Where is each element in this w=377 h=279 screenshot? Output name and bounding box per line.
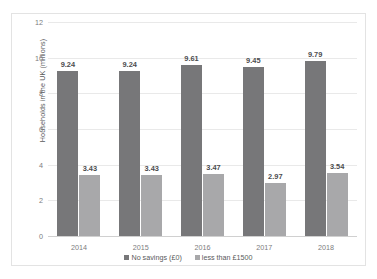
x-axis-tick-label: 2016 [181,243,224,252]
legend-swatch-icon [195,255,200,260]
legend-item[interactable]: No savings (£0) [124,253,181,262]
y-axis-tick-label: 10 [35,53,43,62]
y-axis-tick-label: 4 [39,160,43,169]
bar-value-label: 3.43 [144,164,158,173]
plot-area: 0246810129.243.4320149.243.4320159.613.4… [48,22,357,236]
bar[interactable]: 9.61 [181,65,202,236]
chart-legend: No savings (£0)less than £1500 [12,253,365,262]
x-axis-tick-label: 2015 [119,243,162,252]
x-axis-tick-label: 2018 [305,243,348,252]
bar-value-label: 3.47 [206,163,220,172]
bar[interactable]: 9.45 [243,67,264,236]
gridline [48,236,357,237]
legend-item[interactable]: less than £1500 [195,253,253,262]
bar-group: 9.452.972017 [243,22,286,236]
bar[interactable]: 2.97 [265,183,286,236]
bar-value-label: 9.24 [61,60,75,69]
bar-group: 9.243.432014 [57,22,100,236]
bar-value-label: 9.24 [122,60,136,69]
legend-swatch-icon [124,255,129,260]
bar-group: 9.793.542018 [305,22,348,236]
bar-group: 9.243.432015 [119,22,162,236]
bar[interactable]: 3.47 [203,174,224,236]
x-axis-tick-label: 2017 [243,243,286,252]
bar[interactable]: 9.24 [57,71,78,236]
bar[interactable]: 3.54 [327,173,348,236]
bar[interactable]: 9.24 [119,71,140,236]
y-axis-tick-label: 8 [39,89,43,98]
bar[interactable]: 3.43 [79,175,100,236]
bar-value-label: 9.79 [308,50,322,59]
legend-label: No savings (£0) [131,253,181,262]
x-axis-tick-label: 2014 [57,243,100,252]
chart-container: Households in the UK (millions) 02468101… [11,13,366,266]
bar-value-label: 3.43 [83,164,97,173]
y-axis-tick-label: 0 [39,232,43,241]
bar[interactable]: 3.43 [141,175,162,236]
bar-value-label: 2.97 [268,172,282,181]
y-axis-tick-label: 2 [39,196,43,205]
legend-label: less than £1500 [202,253,253,262]
bar-value-label: 3.54 [330,162,344,171]
y-axis-tick-label: 12 [35,18,43,27]
bar[interactable]: 9.79 [305,61,326,236]
bar-group: 9.613.472016 [181,22,224,236]
bar-value-label: 9.45 [246,56,260,65]
bar-value-label: 9.61 [184,54,198,63]
y-axis-tick-label: 6 [39,125,43,134]
